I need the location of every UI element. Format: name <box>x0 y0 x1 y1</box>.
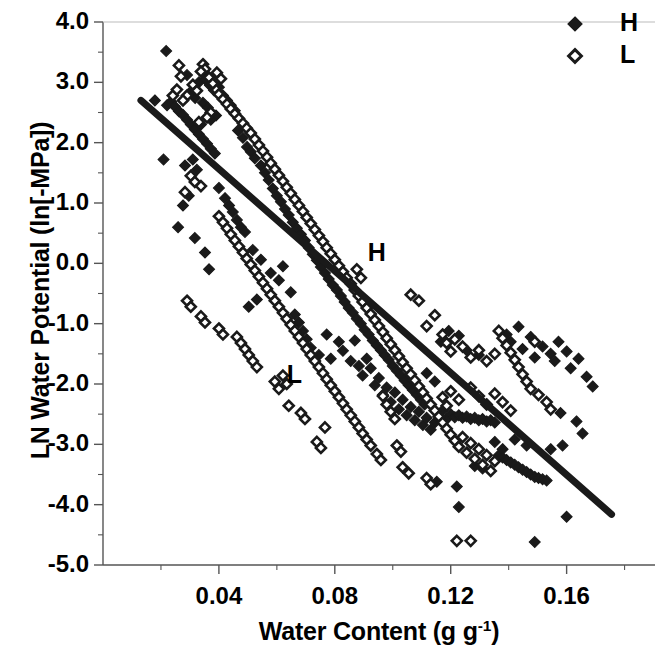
data-point-filled-diamond <box>529 537 540 548</box>
data-point-open-diamond <box>466 536 476 546</box>
data-point-filled-diamond <box>429 376 440 387</box>
series-L <box>168 59 556 546</box>
data-point-filled-diamond <box>577 428 588 439</box>
y-axis-tick-label: -4.0 <box>0 490 89 518</box>
legend-label-H: H <box>620 8 638 37</box>
data-point-open-diamond <box>320 422 330 432</box>
data-point-filled-diamond <box>214 183 225 194</box>
data-point-filled-diamond <box>557 440 568 451</box>
data-point-filled-diamond <box>285 287 296 298</box>
data-point-filled-diamond <box>161 46 172 57</box>
data-point-filled-diamond <box>273 275 284 286</box>
data-point-filled-diamond <box>158 154 169 165</box>
data-point-open-diamond <box>452 536 462 546</box>
data-point-filled-diamond <box>200 247 211 258</box>
chart-figure: LN Water Potential (ln[-MPa]) Water Cont… <box>0 0 665 652</box>
data-point-filled-diamond <box>243 301 254 312</box>
y-axis-tick-label: 1.0 <box>0 188 89 216</box>
data-point-filled-diamond <box>251 294 262 305</box>
annotation-H: H <box>368 238 386 267</box>
data-point-open-diamond <box>506 406 516 416</box>
data-point-filled-diamond <box>321 329 332 340</box>
data-point-open-diamond <box>454 395 464 405</box>
y-axis-tick-label: 0.0 <box>0 248 89 276</box>
y-axis-tick-label: -2.0 <box>0 369 89 397</box>
data-point-filled-diamond <box>561 346 572 357</box>
data-point-filled-diamond <box>325 353 336 364</box>
data-point-filled-diamond <box>453 502 464 513</box>
legend-marker-L <box>569 50 582 63</box>
data-point-open-diamond <box>406 290 416 300</box>
data-point-filled-diamond <box>173 222 184 233</box>
data-point-filled-diamond <box>265 268 276 279</box>
x-axis-tick-label: 0.04 <box>159 582 279 610</box>
data-point-filled-diamond <box>178 200 189 211</box>
data-series-group <box>149 46 598 548</box>
data-point-filled-diamond <box>571 416 582 427</box>
data-point-filled-diamond <box>451 481 462 492</box>
series-H <box>149 46 598 548</box>
data-point-filled-diamond <box>573 353 584 364</box>
data-point-open-diamond <box>490 389 500 399</box>
data-point-open-diamond <box>498 397 508 407</box>
legend-label-L: L <box>620 40 635 69</box>
data-point-filled-diamond <box>149 95 160 106</box>
data-point-filled-diamond <box>517 344 528 355</box>
y-axis-tick-label: -3.0 <box>0 429 89 457</box>
data-point-open-diamond <box>284 401 294 411</box>
data-point-filled-diamond <box>489 437 500 448</box>
data-point-filled-diamond <box>204 264 215 275</box>
data-point-filled-diamond <box>349 335 360 346</box>
x-axis-tick-label: 0.12 <box>391 582 511 610</box>
data-point-filled-diamond <box>553 336 564 347</box>
y-axis-tick-label: -5.0 <box>0 550 89 578</box>
data-point-filled-diamond <box>529 352 540 363</box>
data-point-filled-diamond <box>187 154 198 165</box>
data-point-open-diamond <box>174 60 184 70</box>
y-axis-tick-label: 3.0 <box>0 67 89 95</box>
legend-marker-H <box>568 17 582 31</box>
data-point-filled-diamond <box>247 245 258 256</box>
data-point-open-diamond <box>446 386 456 396</box>
x-axis-tick-label: 0.16 <box>507 582 627 610</box>
legend-markers-group <box>568 17 582 62</box>
data-point-filled-diamond <box>278 261 289 272</box>
data-point-open-diamond <box>414 296 424 306</box>
x-axis-title: Water Content (g g-1) <box>103 617 655 646</box>
data-point-filled-diamond <box>565 363 576 374</box>
y-axis-tick-label: -1.0 <box>0 309 89 337</box>
data-point-open-diamond <box>430 310 440 320</box>
x-axis-tick-label: 0.08 <box>275 582 395 610</box>
annotation-L: L <box>287 360 302 389</box>
data-point-filled-diamond <box>561 511 572 522</box>
data-point-open-diamond <box>422 321 432 331</box>
y-axis-tick-label: 4.0 <box>0 7 89 35</box>
x-axis-title-exponent: -1 <box>478 617 491 634</box>
data-point-open-diamond <box>482 356 492 366</box>
data-point-filled-diamond <box>180 160 191 171</box>
data-point-open-diamond <box>534 390 544 400</box>
data-point-open-diamond <box>490 349 500 359</box>
data-point-filled-diamond <box>513 321 524 332</box>
data-point-filled-diamond <box>587 381 598 392</box>
scatter-plot-canvas <box>0 0 665 652</box>
data-point-filled-diamond <box>421 368 432 379</box>
y-axis-tick-label: 2.0 <box>0 128 89 156</box>
data-point-filled-diamond <box>581 371 592 382</box>
data-point-filled-diamond <box>256 254 267 265</box>
data-point-filled-diamond <box>189 233 200 244</box>
